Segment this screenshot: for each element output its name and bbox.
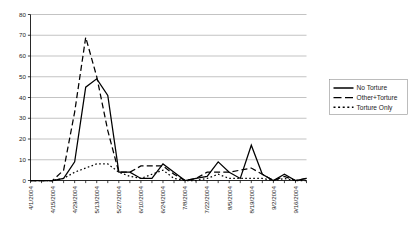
x-tick-label: 5/27/2004 — [115, 185, 122, 213]
line-chart: 01020304050607080 4/1/20044/15/20044/29/… — [0, 0, 411, 239]
y-tick-label: 10 — [19, 156, 26, 163]
legend-label: Other+Torture — [357, 94, 398, 101]
y-tick-label: 50 — [19, 73, 26, 80]
legend-label: Torture Only — [357, 104, 394, 112]
chart-container: 01020304050607080 4/1/20044/15/20044/29/… — [0, 0, 411, 239]
x-tick-label: 9/2/2004 — [270, 185, 277, 210]
y-tick-label: 70 — [19, 31, 26, 38]
x-tick-label: 8/19/2004 — [248, 185, 255, 213]
y-tick-label: 80 — [19, 11, 26, 18]
y-tick-label: 60 — [19, 52, 26, 59]
x-tick-label: 9/16/2004 — [292, 185, 299, 213]
y-tick-label: 40 — [19, 94, 26, 101]
x-tick-label: 7/22/2004 — [203, 185, 210, 213]
y-tick-label: 30 — [19, 114, 26, 121]
x-tick-label: 6/24/2004 — [159, 185, 166, 213]
x-tick-label: 4/29/2004 — [71, 185, 78, 213]
x-tick-label: 7/8/2004 — [181, 185, 188, 210]
x-tick-label: 4/1/2004 — [27, 185, 34, 210]
x-tick-label: 6/10/2004 — [137, 185, 144, 213]
legend-label: No Torture — [357, 84, 388, 91]
x-tick-label: 8/5/2004 — [226, 185, 233, 210]
y-tick-label: 20 — [19, 135, 26, 142]
x-tick-label: 4/15/2004 — [49, 185, 56, 213]
y-tick-label: 0 — [23, 177, 27, 184]
x-tick-label: 5/13/2004 — [93, 185, 100, 213]
